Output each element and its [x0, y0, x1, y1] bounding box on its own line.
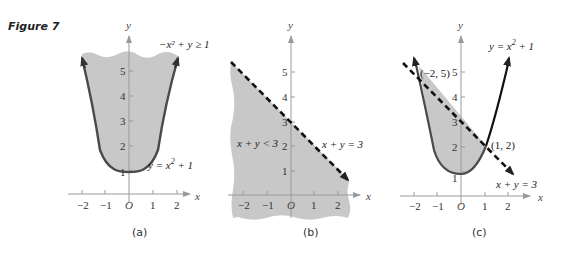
panel-label-c: (c) — [472, 226, 487, 239]
inequality-label-b: x + y < 3 — [236, 137, 279, 149]
y-tick-label: 4 — [120, 90, 126, 102]
line-label-c: x + y = 3 — [495, 178, 538, 190]
line-label-b: x + y = 3 — [321, 138, 364, 150]
x-tick-label: −1 — [100, 199, 112, 211]
figure-canvas: −2 −1 O 1 2 1 2 3 4 5 x y −x² + y ≥ 1 y … — [0, 0, 573, 255]
x-tick-label: 1 — [482, 200, 488, 212]
y-tick-label: 1 — [282, 165, 288, 177]
y-axis-label: y — [457, 19, 463, 31]
x-tick-label: 2 — [174, 199, 180, 211]
y-tick-label: 3 — [452, 116, 458, 128]
x-tick-label: −2 — [238, 199, 250, 211]
curve-label-a: y = x2 + 1 — [147, 157, 193, 171]
y-tick-label: 5 — [282, 66, 288, 78]
y-tick-label: 3 — [120, 115, 126, 127]
y-tick-label: 4 — [452, 91, 458, 103]
x-tick-label: −2 — [409, 200, 421, 212]
y-tick-label: 5 — [120, 65, 126, 77]
y-tick-label: 2 — [120, 140, 126, 152]
x-tick-label: −1 — [262, 199, 274, 211]
x-tick-label: −1 — [432, 200, 444, 212]
y-tick-label: 1 — [120, 166, 126, 178]
shaded-region-a — [82, 51, 178, 172]
x-tick-label: 1 — [150, 199, 156, 211]
y-tick-label: 4 — [282, 91, 288, 103]
panel-c: −2 −1 O 1 2 1 2 3 4 5 x y y = x2 + 1 (−2… — [400, 19, 543, 239]
y-tick-label: 5 — [452, 66, 458, 78]
x-tick-label: 1 — [311, 199, 317, 211]
point-label-1-2: (1, 2) — [491, 139, 515, 152]
panel-label-a: (a) — [132, 226, 147, 239]
x-tick-label: −2 — [77, 199, 89, 211]
panel-b: −2 −1 O 1 2 1 2 3 4 5 x y x + y < 3 x + … — [228, 19, 371, 239]
panel-a: −2 −1 O 1 2 1 2 3 4 5 x y −x² + y ≥ 1 y … — [68, 19, 209, 239]
x-axis-label: x — [365, 190, 371, 202]
y-axis-label: y — [287, 19, 293, 31]
y-tick-label: 2 — [452, 141, 458, 153]
y-tick-label: 3 — [282, 116, 288, 128]
curve-label-c: y = x2 + 1 — [488, 38, 534, 52]
inequality-label-a: −x² + y ≥ 1 — [159, 38, 209, 50]
x-tick-label: 2 — [505, 200, 511, 212]
origin-label: O — [125, 199, 133, 211]
origin-label: O — [287, 199, 295, 211]
origin-label: O — [457, 200, 465, 212]
y-tick-label: 1 — [452, 172, 458, 184]
x-axis-label: x — [194, 190, 200, 202]
x-tick-label: 2 — [335, 199, 341, 211]
y-tick-label: 2 — [282, 140, 288, 152]
y-axis-label: y — [125, 19, 131, 31]
panel-label-b: (b) — [303, 226, 319, 239]
x-axis-label: x — [537, 191, 543, 203]
point-label-neg2-5: (−2, 5) — [420, 67, 450, 80]
